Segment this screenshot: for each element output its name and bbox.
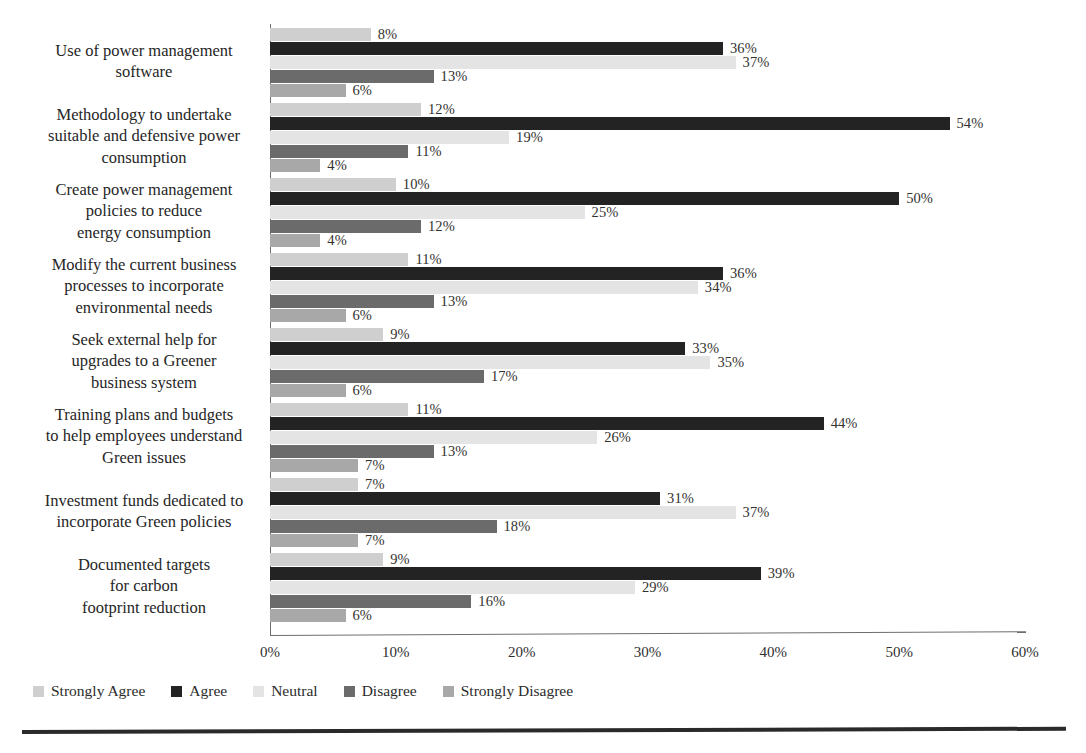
bar-value-label: 34%: [705, 279, 732, 296]
legend-label: Strongly Disagree: [461, 682, 573, 700]
x-tick-label: 40%: [760, 644, 788, 661]
bar: [270, 609, 346, 622]
x-tick-label: 0%: [260, 644, 280, 661]
category-label: Modify the current business processes to…: [28, 254, 260, 319]
bar: [270, 478, 358, 491]
bar-value-label: 37%: [743, 504, 770, 521]
x-tick-label: 10%: [382, 644, 410, 661]
bar: [270, 417, 824, 430]
bar-value-label: 11%: [415, 143, 441, 160]
legend-item[interactable]: Neutral: [253, 682, 317, 700]
bar-value-label: 25%: [592, 204, 619, 221]
bar: [270, 431, 597, 444]
chart-legend: Strongly AgreeAgreeNeutralDisagreeStrong…: [33, 682, 599, 700]
bar-value-label: 7%: [365, 476, 385, 493]
legend-label: Agree: [189, 682, 227, 700]
bar: [270, 28, 371, 41]
legend-swatch-icon: [171, 686, 182, 697]
category-label: Training plans and budgets to help emplo…: [28, 404, 260, 469]
bar: [270, 281, 698, 294]
footer-rule: [22, 727, 1066, 734]
bar: [270, 159, 320, 172]
bar-value-label: 13%: [441, 293, 468, 310]
legend-item[interactable]: Strongly Agree: [33, 682, 145, 700]
category-label: Documented targets for carbon footprint …: [28, 554, 260, 619]
bar: [270, 56, 736, 69]
x-tick-label: 60%: [1011, 644, 1039, 661]
x-axis-line: [270, 631, 1026, 636]
bar-value-label: 31%: [667, 490, 694, 507]
bar-value-label: 12%: [428, 218, 455, 235]
bar-value-label: 9%: [390, 326, 410, 343]
bar: [270, 42, 723, 55]
x-tick-label: 50%: [885, 644, 913, 661]
bar: [270, 192, 899, 205]
bar-value-label: 37%: [743, 54, 770, 71]
bar-value-label: 26%: [604, 429, 631, 446]
legend-item[interactable]: Agree: [171, 682, 227, 700]
bar-value-label: 19%: [516, 129, 543, 146]
bar: [270, 234, 320, 247]
bar: [270, 309, 346, 322]
bar: [270, 534, 358, 547]
bar-value-label: 29%: [642, 579, 669, 596]
bar: [270, 459, 358, 472]
category-label: Create power management policies to redu…: [28, 179, 260, 244]
bar-value-label: 10%: [403, 176, 430, 193]
bar-value-label: 11%: [415, 251, 441, 268]
bar-value-label: 4%: [327, 232, 347, 249]
bar-value-label: 7%: [365, 532, 385, 549]
bar: [270, 267, 723, 280]
bar: [270, 492, 660, 505]
bar-value-label: 11%: [415, 401, 441, 418]
legend-item[interactable]: Disagree: [344, 682, 417, 700]
bar-value-label: 6%: [353, 307, 373, 324]
category-label: Seek external help for upgrades to a Gre…: [28, 329, 260, 394]
bar: [270, 567, 761, 580]
bar-value-label: 35%: [717, 354, 744, 371]
bar: [270, 342, 685, 355]
bar-value-label: 13%: [441, 443, 468, 460]
bar-value-label: 7%: [365, 457, 385, 474]
bar-value-label: 50%: [906, 190, 933, 207]
bar: [270, 131, 509, 144]
category-label: Methodology to undertake suitable and de…: [28, 104, 260, 169]
bar: [270, 84, 346, 97]
bar-value-label: 8%: [378, 26, 398, 43]
legend-label: Neutral: [271, 682, 317, 700]
bar: [270, 117, 950, 130]
bar: [270, 253, 408, 266]
legend-swatch-icon: [344, 686, 355, 697]
bar: [270, 445, 434, 458]
bar-value-label: 6%: [353, 82, 373, 99]
bar: [270, 103, 421, 116]
bar-value-label: 12%: [428, 101, 455, 118]
bar: [270, 328, 383, 341]
category-label: Use of power management software: [28, 40, 260, 83]
bar-value-label: 4%: [327, 157, 347, 174]
bar-value-label: 6%: [353, 382, 373, 399]
bar-value-label: 18%: [504, 518, 531, 535]
legend-label: Disagree: [362, 682, 417, 700]
bar-value-label: 54%: [957, 115, 984, 132]
bar-value-label: 9%: [390, 551, 410, 568]
bar: [270, 553, 383, 566]
bar: [270, 370, 484, 383]
legend-swatch-icon: [253, 686, 264, 697]
x-tick-label: 20%: [508, 644, 536, 661]
category-label: Investment funds dedicated to incorporat…: [28, 490, 260, 533]
bar-chart: Use of power management softwareMethodol…: [0, 0, 1086, 753]
legend-item[interactable]: Strongly Disagree: [443, 682, 573, 700]
bar-value-label: 13%: [441, 68, 468, 85]
bar-value-label: 16%: [478, 593, 505, 610]
bar-value-label: 33%: [692, 340, 719, 357]
bar: [270, 384, 346, 397]
bar-value-label: 39%: [768, 565, 795, 582]
bar-value-label: 36%: [730, 265, 757, 282]
legend-swatch-icon: [33, 686, 44, 697]
bar: [270, 178, 396, 191]
x-tick-label: 30%: [634, 644, 662, 661]
legend-swatch-icon: [443, 686, 454, 697]
bar: [270, 403, 408, 416]
bar: [270, 581, 635, 594]
